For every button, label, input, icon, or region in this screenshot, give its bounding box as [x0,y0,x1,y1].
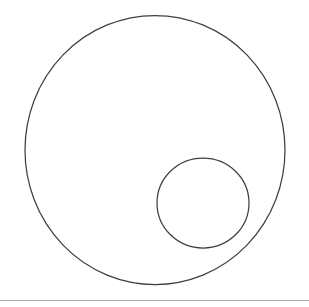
canvas-background [0,0,309,307]
circles-figure [0,0,309,307]
diagram-canvas [0,0,309,307]
